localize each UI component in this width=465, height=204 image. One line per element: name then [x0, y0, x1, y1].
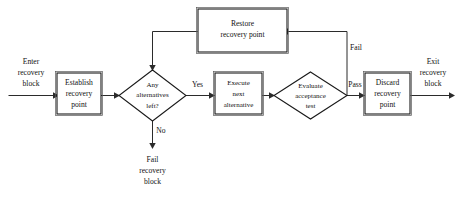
edge-label-fail: Fail	[350, 43, 362, 52]
node-establish-line-1: Establish	[65, 78, 93, 87]
label-fail-recovery-block: Fail recovery block	[139, 155, 166, 186]
edge-restore-to-any	[149, 32, 197, 72]
node-any-line-2: alternatives	[136, 91, 169, 99]
edge-discard-to-exit	[411, 92, 455, 98]
flowchart-canvas: Establish recovery point Any alternative…	[0, 0, 465, 204]
edge-label-pass: Pass	[348, 80, 362, 89]
edge-any-to-fail-no	[149, 120, 155, 149]
node-execute-line-1: Execute	[227, 79, 250, 87]
edge-evaluate-to-discard-pass	[346, 92, 365, 98]
node-execute-line-3: alternative	[224, 101, 254, 109]
node-restore-recovery-point[interactable]: Restore recovery point	[197, 8, 289, 54]
node-any-alternatives-left[interactable]: Any alternatives left?	[119, 70, 186, 121]
edge-label-no: No	[156, 126, 165, 135]
node-establish-line-2: recovery	[66, 89, 93, 98]
label-exit-recovery-block: Exit recovery block	[420, 57, 447, 88]
failterm-line-1: Fail	[147, 155, 159, 164]
node-evaluate-acceptance-test[interactable]: Evaluate acceptance test	[274, 72, 347, 119]
node-any-line-3: left?	[146, 102, 158, 110]
failterm-line-3: block	[144, 177, 161, 186]
exit-line-1: Exit	[427, 57, 441, 66]
exit-line-2: recovery	[420, 68, 447, 77]
enter-line-1: Enter	[23, 57, 40, 66]
failterm-line-2: recovery	[139, 166, 166, 175]
node-execute-next-alternative[interactable]: Execute next alternative	[214, 72, 264, 116]
node-any-line-1: Any	[146, 81, 159, 89]
edge-label-yes: Yes	[192, 80, 203, 89]
recovery-block-flowchart: Establish recovery point Any alternative…	[0, 0, 465, 204]
enter-line-3: block	[23, 79, 40, 88]
node-discard-line-3: point	[380, 100, 397, 109]
node-establish-line-3: point	[71, 100, 88, 109]
node-establish-recovery-point[interactable]: Establish recovery point	[56, 72, 103, 116]
node-discard-line-2: recovery	[374, 89, 401, 98]
label-enter-recovery-block: Enter recovery block	[18, 57, 45, 88]
exit-line-3: block	[425, 79, 442, 88]
node-evaluate-line-1: Evaluate	[298, 82, 323, 90]
edge-enter-to-establish	[9, 92, 59, 98]
node-discard-recovery-point[interactable]: Discard recovery point	[364, 72, 412, 116]
node-evaluate-line-2: acceptance	[295, 92, 326, 100]
node-discard-line-1: Discard	[376, 78, 400, 87]
node-evaluate-line-3: test	[306, 102, 316, 110]
enter-line-2: recovery	[18, 68, 45, 77]
node-restore-line-1: Restore	[231, 19, 255, 28]
edge-establish-to-any	[101, 92, 120, 98]
node-restore-line-2: recovery point	[220, 30, 265, 39]
node-execute-line-2: next	[232, 90, 244, 98]
edge-any-to-execute-yes	[186, 92, 215, 98]
